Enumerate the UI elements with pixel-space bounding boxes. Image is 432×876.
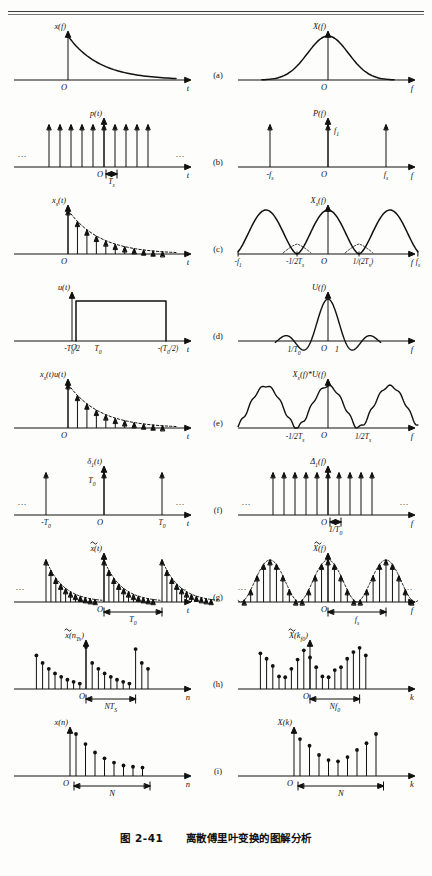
svg-text:t: t bbox=[187, 170, 190, 180]
row-label-e: (e) bbox=[206, 418, 230, 428]
svg-text:f1: f1 bbox=[334, 126, 339, 137]
panel-b-time: p(t)tO……Ts bbox=[8, 105, 203, 192]
figure-row-c: xs(t)tOXs(f)fO-f1-1/2Ts1/(2Ts)fs(c) bbox=[0, 192, 432, 279]
svg-text:x(t): x(t) bbox=[89, 544, 102, 553]
panel-e-time: xs(t)u(t)tO bbox=[8, 366, 203, 453]
svg-text:…: … bbox=[242, 497, 251, 507]
figure-caption: 图 2-41 离散傅里叶变换的图解分析 bbox=[0, 830, 432, 845]
panel-i-frequency: X(k)kON bbox=[232, 714, 428, 801]
row-label-i: (i) bbox=[206, 766, 230, 776]
svg-text:O: O bbox=[321, 344, 327, 353]
svg-text:k: k bbox=[410, 692, 414, 702]
svg-text:Δ1(f): Δ1(f) bbox=[309, 457, 326, 468]
panel-h-time: x(nTs)nONTS bbox=[8, 627, 203, 714]
svg-text:…: … bbox=[404, 582, 413, 592]
svg-text:1/T0: 1/T0 bbox=[329, 525, 343, 536]
svg-text:t: t bbox=[187, 518, 190, 528]
svg-text:f: f bbox=[411, 431, 415, 441]
svg-text:fs: fs bbox=[355, 615, 360, 626]
svg-text:fs: fs bbox=[416, 257, 420, 268]
row-label-h: (h) bbox=[206, 679, 230, 689]
svg-text:O: O bbox=[61, 257, 67, 266]
svg-text:X(k): X(k) bbox=[277, 718, 293, 727]
svg-text:X(f): X(f) bbox=[312, 22, 326, 31]
row-label-f: (f) bbox=[206, 505, 230, 515]
row-label-d: (d) bbox=[206, 331, 230, 341]
svg-text:…: … bbox=[18, 149, 27, 159]
svg-text:Xs(f)*U(f): Xs(f)*U(f) bbox=[291, 370, 326, 381]
header-rule-thin bbox=[8, 14, 424, 15]
figure-row-d: u(t)t-T0/2OT0-(T0/2)U(f)fO1/T01(d) bbox=[0, 279, 432, 366]
svg-text:O: O bbox=[97, 605, 103, 614]
figure-row-e: xs(t)u(t)tOXs(f)*U(f)fO-1/2Ts1/2Ts(e) bbox=[0, 366, 432, 453]
svg-text:t: t bbox=[187, 344, 190, 354]
svg-text:x(n): x(n) bbox=[54, 718, 69, 727]
svg-text:f: f bbox=[411, 83, 415, 93]
svg-text:Xs(f): Xs(f) bbox=[310, 196, 327, 207]
svg-text:-fs: -fs bbox=[266, 170, 274, 181]
svg-text:O: O bbox=[63, 779, 69, 788]
figure-row-i: x(n)nONX(k)kON(i) bbox=[0, 714, 432, 801]
figure-number: 图 2-41 bbox=[120, 832, 163, 844]
svg-text:O: O bbox=[61, 83, 67, 92]
panel-g-time: x(t)tO……T0 bbox=[8, 540, 203, 627]
svg-text:δ1(t): δ1(t) bbox=[87, 457, 102, 468]
svg-text:O: O bbox=[97, 518, 103, 527]
svg-text:n: n bbox=[186, 779, 190, 789]
svg-text:-T0: -T0 bbox=[41, 518, 51, 529]
svg-text:…: … bbox=[238, 582, 247, 592]
svg-text:N: N bbox=[337, 788, 345, 798]
row-label-g: (g) bbox=[206, 592, 230, 602]
svg-text:-1/2Ts: -1/2Ts bbox=[286, 257, 304, 268]
svg-text:X(kf0): X(kf0) bbox=[288, 631, 308, 642]
svg-text:t: t bbox=[187, 431, 190, 441]
panel-b-frequency: P(f)fO-fsfsf1 bbox=[232, 105, 428, 192]
figure-row-b: p(t)tO……TsP(f)fO-fsfsf1(b) bbox=[0, 105, 432, 192]
panel-a-time: x(f)tO bbox=[8, 18, 203, 105]
svg-text:1: 1 bbox=[335, 345, 339, 354]
svg-text:T0: T0 bbox=[94, 344, 101, 355]
svg-text:k: k bbox=[410, 779, 414, 789]
svg-text:u(t): u(t) bbox=[58, 283, 70, 292]
figure-row-h: x(nTs)nONTSX(kf0)kONf0(h) bbox=[0, 627, 432, 714]
svg-text:…: … bbox=[178, 582, 187, 592]
svg-text:…: … bbox=[176, 149, 185, 159]
figure-row-f: δ1(t)tO-T0T0T0……Δ1(f)fO……1/T0(f) bbox=[0, 453, 432, 540]
svg-text:O: O bbox=[321, 605, 327, 614]
svg-text:O: O bbox=[321, 518, 327, 527]
svg-text:T0: T0 bbox=[88, 476, 95, 487]
svg-text:O: O bbox=[321, 170, 327, 179]
figure-page: x(f)tOX(f)fO(a)p(t)tO……TsP(f)fO-fsfsf1(b… bbox=[0, 0, 432, 876]
svg-text:f: f bbox=[411, 257, 415, 267]
svg-text:T0: T0 bbox=[158, 518, 165, 529]
svg-text:O: O bbox=[321, 431, 327, 440]
row-label-a: (a) bbox=[206, 70, 230, 80]
panel-c-frequency: Xs(f)fO-f1-1/2Ts1/(2Ts)fs bbox=[232, 192, 428, 279]
svg-text:NTS: NTS bbox=[103, 702, 117, 713]
panel-g-frequency: X(f)fO……fs bbox=[232, 540, 428, 627]
svg-text:t: t bbox=[187, 83, 190, 93]
svg-text:O: O bbox=[303, 692, 309, 701]
row-label-b: (b) bbox=[206, 157, 230, 167]
svg-text:xs(t)u(t): xs(t)u(t) bbox=[39, 370, 66, 381]
svg-text:n: n bbox=[186, 692, 190, 702]
panel-e-frequency: Xs(f)*U(f)fO-1/2Ts1/2Ts bbox=[232, 366, 428, 453]
svg-text:O: O bbox=[71, 343, 77, 352]
svg-text:fs: fs bbox=[384, 170, 389, 181]
svg-text:t: t bbox=[187, 605, 190, 615]
svg-text:O: O bbox=[61, 431, 67, 440]
svg-text:Nf0: Nf0 bbox=[329, 702, 341, 713]
header-rule bbox=[8, 11, 424, 12]
svg-text:…: … bbox=[176, 497, 185, 507]
svg-text:t: t bbox=[187, 257, 190, 267]
svg-text:O: O bbox=[321, 257, 327, 266]
svg-text:f: f bbox=[411, 170, 415, 180]
svg-text:O: O bbox=[321, 83, 327, 92]
svg-text:…: … bbox=[18, 497, 27, 507]
svg-text:f: f bbox=[411, 605, 415, 615]
panel-h-frequency: X(kf0)kONf0 bbox=[232, 627, 428, 714]
figure-row-a: x(f)tOX(f)fO(a) bbox=[0, 18, 432, 105]
svg-text:…: … bbox=[16, 582, 25, 592]
panel-c-time: xs(t)tO bbox=[8, 192, 203, 279]
svg-text:O: O bbox=[79, 692, 85, 701]
